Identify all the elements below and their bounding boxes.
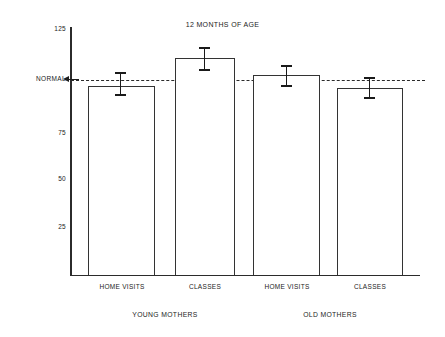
- error-bar-line-2: [204, 47, 205, 70]
- error-bar-cap-lower-3: [281, 85, 292, 87]
- y-tick-label-75: 75: [28, 129, 66, 136]
- error-bar-line-3: [286, 65, 287, 86]
- y-tick-125: 125: [22, 25, 66, 34]
- bar-chart-figure: 12 MONTHS OF AGE 125 75 50 25 NORMAL HOM…: [0, 0, 445, 337]
- normal-arrow-icon: [63, 76, 69, 82]
- error-bar-cap-upper-3: [281, 65, 292, 67]
- y-tick-label-125: 125: [28, 25, 66, 32]
- error-bar-cap-lower-1: [115, 94, 126, 96]
- y-axis-line: [70, 27, 72, 276]
- group-label-old-mothers: OLD MOTHERS: [275, 311, 385, 318]
- y-tick-50: 50: [22, 175, 66, 184]
- x-category-label-4: CLASSES: [326, 283, 414, 290]
- x-category-label-1: HOME VISITS: [78, 283, 166, 290]
- error-bar-cap-lower-2: [199, 69, 210, 71]
- error-bar-cap-lower-4: [364, 97, 375, 99]
- y-tick-25: 25: [22, 223, 66, 232]
- y-tick-label-25: 25: [28, 223, 66, 230]
- error-bar-line-4: [369, 77, 370, 98]
- error-bar-cap-upper-4: [364, 77, 375, 79]
- normal-reference-label-wrap: NORMAL: [6, 75, 66, 84]
- bar-home-visits-old: [253, 75, 320, 275]
- x-axis-line: [70, 275, 420, 276]
- bar-classes-old: [337, 88, 403, 275]
- y-tick-label-50: 50: [28, 175, 66, 182]
- group-label-young-mothers: YOUNG MOTHERS: [110, 311, 220, 318]
- error-bar-cap-upper-1: [115, 72, 126, 74]
- x-category-label-2: CLASSES: [161, 283, 249, 290]
- x-category-label-3: HOME VISITS: [243, 283, 331, 290]
- y-tick-75: 75: [22, 129, 66, 138]
- error-bar-line-1: [120, 72, 121, 95]
- normal-reference-line: [71, 80, 425, 81]
- bar-classes-young: [175, 58, 235, 275]
- bar-home-visits-young: [88, 86, 155, 275]
- chart-title: 12 MONTHS OF AGE: [0, 21, 445, 28]
- error-bar-cap-upper-2: [199, 47, 210, 49]
- normal-reference-label: NORMAL: [36, 75, 66, 82]
